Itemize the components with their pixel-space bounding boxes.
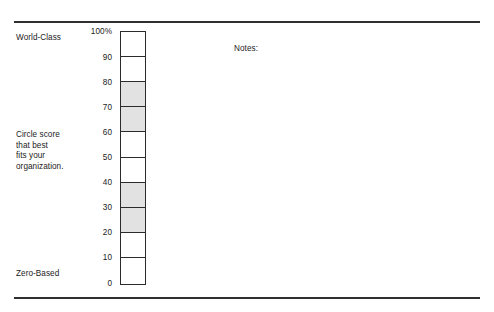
scale-cell-30-40[interactable] [121,183,145,208]
notes-heading: Notes: [234,44,258,54]
top-divider-rule [14,21,480,23]
notes-writing-area[interactable] [234,58,472,286]
tick-label-100: 100% [78,27,112,37]
scale-label-zero-based: Zero-Based [16,269,59,280]
scale-cell-10-20[interactable] [121,233,145,258]
tick-label-20: 20 [78,228,112,238]
scale-cell-60-70[interactable] [121,107,145,132]
rating-scale-column[interactable] [120,31,146,285]
tick-label-80: 80 [78,78,112,88]
scale-cell-40-50[interactable] [121,158,145,183]
tick-label-50: 50 [78,153,112,163]
scale-cell-70-80[interactable] [121,82,145,107]
tick-label-0: 0 [78,279,112,289]
worksheet-page: World-Class Circle score that best fits … [0,0,494,312]
tick-label-30: 30 [78,203,112,213]
bottom-divider-rule [14,297,480,299]
tick-label-60: 60 [78,128,112,138]
scale-cell-20-30[interactable] [121,208,145,233]
tick-label-10: 10 [78,253,112,263]
scale-cell-80-90[interactable] [121,57,145,82]
scale-cell-50-60[interactable] [121,132,145,157]
tick-label-40: 40 [78,178,112,188]
scale-tick-labels: 100%9080706050403020100 [78,31,112,285]
tick-label-90: 90 [78,53,112,63]
scale-label-world-class: World-Class [16,33,61,44]
scale-instruction-text: Circle score that best fits your organiz… [16,130,64,172]
tick-label-70: 70 [78,103,112,113]
scale-cell-0-10[interactable] [121,258,145,283]
scale-cell-90-100[interactable] [121,32,145,57]
